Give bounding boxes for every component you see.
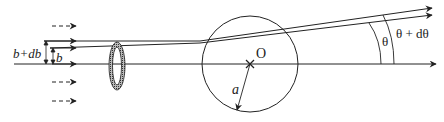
label-theta-plus-dtheta: θ + dθ: [396, 26, 429, 41]
trajectory-inner: [50, 15, 432, 48]
arrowhead-down: [44, 60, 48, 64]
label-radius-a: a: [232, 82, 239, 97]
trajectory-outer: [44, 8, 432, 41]
scattering-diagram: b+db b O a θ θ + dθ: [0, 0, 444, 122]
label-theta: θ: [382, 34, 388, 49]
arrowhead-up: [51, 48, 55, 52]
label-b-plus-db: b+db: [13, 46, 42, 61]
arrowhead-down: [51, 60, 55, 64]
label-b: b: [56, 50, 63, 65]
theta-arc: [369, 23, 381, 64]
impact-parameter-markers: [44, 41, 55, 64]
annular-ring: [109, 42, 125, 90]
label-center-O: O: [256, 46, 266, 61]
arrowhead-up: [44, 41, 48, 45]
